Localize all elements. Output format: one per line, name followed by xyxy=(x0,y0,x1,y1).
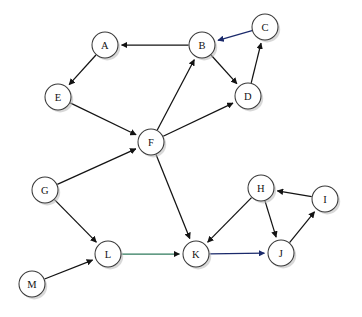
node-a[interactable]: A xyxy=(92,32,120,60)
node-d[interactable]: D xyxy=(235,83,263,111)
node-layer: ABCDEFGHIJKLM xyxy=(19,14,340,299)
node-f[interactable]: F xyxy=(138,129,166,157)
node-label-c: C xyxy=(261,22,268,33)
node-c[interactable]: C xyxy=(252,14,280,42)
node-label-i: I xyxy=(323,194,327,205)
edge-k-to-j xyxy=(209,253,264,254)
node-g[interactable]: G xyxy=(32,177,60,205)
node-label-a: A xyxy=(101,40,109,51)
node-b[interactable]: B xyxy=(189,32,217,60)
node-label-k: K xyxy=(192,249,200,260)
node-label-m: M xyxy=(27,279,37,290)
node-label-j: J xyxy=(279,248,283,259)
edge-h-to-k xyxy=(208,198,252,243)
node-label-l: L xyxy=(105,249,112,260)
node-k[interactable]: K xyxy=(183,241,211,269)
node-i[interactable]: I xyxy=(312,186,340,214)
node-e[interactable]: E xyxy=(45,84,73,112)
graph-diagram: ABCDEFGHIJKLM xyxy=(0,0,362,317)
node-m[interactable]: M xyxy=(19,271,47,299)
node-l[interactable]: L xyxy=(95,241,123,269)
graph-canvas: ABCDEFGHIJKLM xyxy=(0,0,362,317)
node-label-d: D xyxy=(244,91,252,102)
node-h[interactable]: H xyxy=(248,175,276,203)
edge-g-to-f xyxy=(57,149,136,185)
node-label-e: E xyxy=(55,92,62,103)
node-label-f: F xyxy=(148,137,154,148)
edge-e-to-f xyxy=(70,103,136,135)
edge-f-to-d xyxy=(163,103,233,136)
node-label-g: G xyxy=(41,185,49,196)
node-j[interactable]: J xyxy=(268,240,296,268)
edge-g-to-l xyxy=(54,200,96,243)
edge-f-to-b xyxy=(157,60,194,130)
edge-h-to-j xyxy=(265,201,276,237)
edge-i-to-h xyxy=(277,191,311,197)
edge-c-to-b xyxy=(218,31,252,41)
edge-d-to-c xyxy=(251,43,261,83)
node-label-b: B xyxy=(198,40,205,51)
node-label-h: H xyxy=(257,183,265,194)
edge-m-to-l xyxy=(45,260,93,279)
edge-f-to-k xyxy=(156,155,190,239)
edge-a-to-e xyxy=(69,55,96,85)
edge-b-to-d xyxy=(211,55,237,84)
edge-j-to-i xyxy=(290,212,315,243)
